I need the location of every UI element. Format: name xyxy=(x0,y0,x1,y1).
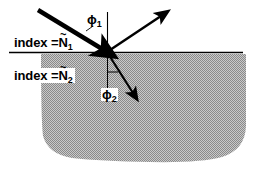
index-label-upper-medium: index =~N1 xyxy=(12,35,75,50)
tilde-accent-icon: ~ xyxy=(58,62,67,73)
phi-symbol: ϕ xyxy=(102,87,112,102)
tilde-accent-icon: ~ xyxy=(58,29,67,40)
index-label-2-prefix: index = xyxy=(14,68,58,83)
optics-refraction-figure: index =~N1 index =~N2 ϕ1 ϕ2 xyxy=(0,0,255,177)
index-label-1-symbol-group: ~N xyxy=(58,36,67,49)
figure-canvas xyxy=(0,0,255,177)
index-label-lower-medium: index =~N2 xyxy=(12,68,75,83)
index-label-2-symbol-group: ~N xyxy=(58,69,67,82)
phi-symbol: ϕ xyxy=(87,12,97,27)
index-label-2-subscript: 2 xyxy=(68,75,73,85)
index-label-1-subscript: 1 xyxy=(68,42,73,52)
index-label-1-prefix: index = xyxy=(14,35,58,50)
angle-label-phi-1: ϕ1 xyxy=(86,13,103,26)
reflected-ray xyxy=(107,16,161,52)
phi-1-subscript: 1 xyxy=(97,19,102,29)
phi-2-subscript: 2 xyxy=(112,94,117,104)
angle-label-phi-2: ϕ2 xyxy=(101,88,118,101)
